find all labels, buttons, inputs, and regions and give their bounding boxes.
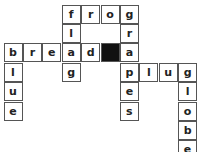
letter-cell[interactable]: r	[23, 43, 42, 62]
letter-cell[interactable]: b	[4, 43, 23, 62]
letter-cell[interactable]: o	[178, 102, 197, 121]
letter-cell[interactable]: o	[101, 5, 120, 24]
black-cell	[101, 43, 120, 62]
letter-cell[interactable]: a	[120, 43, 139, 62]
letter-cell[interactable]: a	[62, 43, 81, 62]
letter-cell[interactable]: g	[178, 63, 197, 82]
letter-cell[interactable]: f	[62, 5, 81, 24]
letter-cell[interactable]: g	[120, 5, 139, 24]
letter-cell[interactable]: e	[178, 140, 197, 152]
letter-cell[interactable]: s	[120, 102, 139, 121]
letter-cell[interactable]: l	[62, 24, 81, 43]
letter-cell[interactable]: e	[120, 82, 139, 101]
letter-cell[interactable]: b	[178, 121, 197, 140]
letter-cell[interactable]: g	[62, 63, 81, 82]
letter-cell[interactable]: r	[120, 24, 139, 43]
letter-cell[interactable]: d	[81, 43, 100, 62]
letter-cell[interactable]: p	[120, 63, 139, 82]
letter-cell[interactable]: e	[4, 102, 23, 121]
letter-cell[interactable]: e	[42, 43, 61, 62]
crossword-grid: froglrbreadalgpluguelesobe	[4, 5, 198, 149]
letter-cell[interactable]: l	[178, 82, 197, 101]
letter-cell[interactable]: l	[139, 63, 158, 82]
letter-cell[interactable]: u	[4, 82, 23, 101]
letter-cell[interactable]: r	[81, 5, 100, 24]
letter-cell[interactable]: u	[159, 63, 178, 82]
letter-cell[interactable]: l	[4, 63, 23, 82]
